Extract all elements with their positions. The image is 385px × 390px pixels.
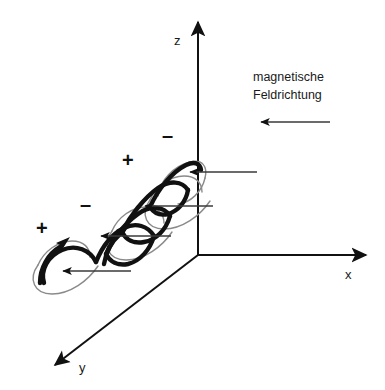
charge-sign-plus-1: + bbox=[36, 218, 48, 238]
magnetic-field-caption-line2: Feldrichtung bbox=[253, 88, 322, 104]
z-axis-label: z bbox=[174, 34, 181, 47]
x-axis-label: x bbox=[345, 268, 352, 281]
physics-diagram-helix-magnetic-field: z x y + – + – magnetische Feldrichtung bbox=[0, 0, 385, 390]
y-axis-label: y bbox=[79, 361, 86, 374]
diagram-canvas bbox=[0, 0, 385, 390]
charge-sign-minus-2: – bbox=[162, 125, 173, 145]
helix-front-strands bbox=[43, 163, 201, 283]
charge-sign-plus-2: + bbox=[122, 150, 134, 170]
magnetic-field-caption-line1: magnetische bbox=[253, 70, 324, 86]
charge-sign-minus-1: – bbox=[80, 194, 91, 214]
